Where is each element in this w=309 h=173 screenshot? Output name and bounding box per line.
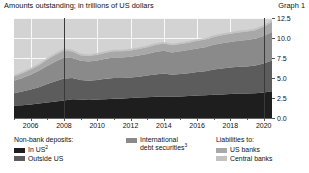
legend-group: Liabilities to:US banksCentral banks — [216, 136, 273, 164]
plot-area — [14, 18, 272, 118]
x-minor-tick-mark — [47, 118, 48, 120]
y-tick-label: 10.0 — [277, 35, 291, 42]
y-tick-mark — [272, 98, 275, 99]
vertical-marker-line — [264, 18, 265, 118]
legend-item[interactable]: Outside US — [14, 155, 73, 163]
y-tick-label: 0.0 — [277, 115, 287, 122]
x-tick-label: 2020 — [256, 122, 272, 130]
x-tick-label: 2010 — [89, 122, 105, 130]
y-tick-mark — [272, 78, 275, 79]
stacked-area-series — [14, 18, 272, 118]
x-tick-label: 2014 — [156, 122, 172, 130]
legend-group: Non-bank deposits:In US2Outside US — [14, 136, 73, 164]
legend-swatch — [216, 148, 227, 153]
y-tick-label: 7.5 — [277, 55, 287, 62]
x-tick-mark — [64, 118, 65, 121]
legend-item[interactable]: Internationaldebt securities3 — [126, 136, 187, 152]
legend-item[interactable]: Central banks — [216, 155, 273, 163]
graph-number-label: Graph 1 — [278, 1, 305, 10]
legend-item-label: Internationaldebt securities3 — [140, 136, 187, 152]
chart-header: Amounts outstanding; in trillions of US … — [4, 1, 305, 14]
y-tick-mark — [272, 38, 275, 39]
x-minor-tick-mark — [214, 118, 215, 120]
legend-footnote-marker: 3 — [184, 142, 187, 148]
x-tick-mark — [97, 118, 98, 121]
legend-group-heading: Non-bank deposits: — [14, 136, 73, 144]
x-minor-tick-mark — [180, 118, 181, 120]
legend-swatch — [126, 138, 137, 143]
x-minor-tick-mark — [147, 118, 148, 120]
y-tick-mark — [272, 58, 275, 59]
x-tick-mark — [197, 118, 198, 121]
x-minor-tick-mark — [114, 118, 115, 120]
x-minor-tick-mark — [247, 118, 248, 120]
chart-title: Amounts outstanding; in trillions of US … — [4, 1, 154, 10]
y-tick-mark — [272, 118, 275, 119]
x-tick-label: 2012 — [123, 122, 139, 130]
x-tick-mark — [230, 118, 231, 121]
x-tick-label: 2018 — [223, 122, 239, 130]
y-tick-label: 5.0 — [277, 75, 287, 82]
x-minor-tick-mark — [14, 118, 15, 120]
x-tick-label: 2006 — [23, 122, 39, 130]
x-tick-label: 2016 — [189, 122, 205, 130]
y-tick-mark — [272, 18, 275, 19]
legend-item-label: Central banks — [230, 155, 273, 163]
y-tick-label: 12.5 — [277, 15, 291, 22]
x-minor-tick-mark — [81, 118, 82, 120]
y-axis: 0.02.55.07.510.012.5 — [272, 18, 309, 118]
x-tick-mark — [264, 118, 265, 121]
x-tick-mark — [164, 118, 165, 121]
x-axis: 20062008201020122014201620182020 — [14, 118, 272, 134]
legend-item[interactable]: US banks — [216, 146, 273, 154]
x-tick-mark — [131, 118, 132, 121]
x-tick-label: 2008 — [56, 122, 72, 130]
legend-item-label: In US2 — [28, 146, 48, 154]
legend-item[interactable]: In US2 — [14, 146, 73, 154]
legend-swatch — [216, 156, 227, 161]
legend-footnote-marker: 2 — [45, 144, 48, 150]
x-tick-mark — [31, 118, 32, 121]
vertical-marker-line — [64, 18, 65, 118]
legend-group: Internationaldebt securities3 — [126, 136, 187, 153]
graph-panel: Amounts outstanding; in trillions of US … — [0, 0, 309, 173]
y-tick-label: 2.5 — [277, 95, 287, 102]
legend-item-label: Outside US — [28, 155, 63, 163]
legend-item-label: US banks — [230, 146, 260, 154]
legend-group-heading: Liabilities to: — [216, 136, 273, 144]
chart-legend: Non-bank deposits:In US2Outside USIntern… — [14, 136, 309, 170]
legend-swatch — [14, 148, 25, 153]
legend-swatch — [14, 156, 25, 161]
